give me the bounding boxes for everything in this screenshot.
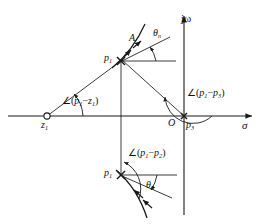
theta-label-lower: θn bbox=[146, 180, 154, 191]
figure-canvas: jω σ z1 p1 p1 O p3 A ∠(p1−z1) ∠(p1−p3) ∠… bbox=[0, 0, 269, 224]
origin-label: O bbox=[168, 118, 175, 128]
branch-arrow-upper bbox=[124, 50, 131, 57]
angle-label-p1-p3: ∠(p1−p3) bbox=[187, 88, 225, 99]
departure-point-label-A: A bbox=[129, 33, 135, 43]
root-locus-branch-lower bbox=[116, 170, 147, 218]
angle-arc-theta-upper bbox=[150, 47, 156, 61]
angle-label-p1-p2: ∠(p1−p2) bbox=[128, 148, 166, 159]
theta-label-upper: θn bbox=[153, 28, 161, 39]
zero-label-z1: z1 bbox=[41, 120, 48, 131]
vector-p3-to-p1 bbox=[122, 60, 184, 116]
j-omega-axis-label: jω bbox=[181, 13, 191, 24]
branch-arrow-lower-2 bbox=[143, 200, 152, 208]
pole-label-p3: p3 bbox=[186, 120, 194, 131]
angle-label-p1-z1: ∠(p1−z1) bbox=[62, 96, 98, 107]
pole-label-p1-upper: p1 bbox=[104, 53, 112, 64]
vector-z1-to-p1 bbox=[47, 60, 122, 116]
departure-ray-upper bbox=[118, 37, 170, 63]
pole-label-p1-lower: p1 bbox=[104, 168, 112, 179]
sigma-axis-label: σ bbox=[242, 120, 247, 131]
